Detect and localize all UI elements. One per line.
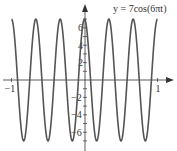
x-tick-label: 1 xyxy=(156,83,161,94)
y-axis-arrow-icon xyxy=(82,4,88,12)
y-tick-label: −6 xyxy=(71,127,82,138)
x-tick-label: −1 xyxy=(5,83,16,94)
chart-title: y = 7cos(6πt) xyxy=(113,3,166,15)
cosine-chart: −11−6−4−2246 y = 7cos(6πt) xyxy=(0,0,177,151)
x-axis-arrow-icon xyxy=(166,77,174,83)
